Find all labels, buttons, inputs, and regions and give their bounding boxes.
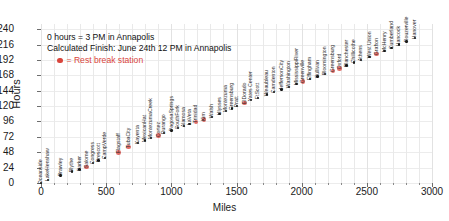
x-axis-tick-label: 1000 [148, 187, 194, 197]
y-axis-tick-mark [37, 106, 41, 107]
y-axis-tick-mark [37, 45, 41, 46]
y-axis-tick-label: 240 [0, 24, 14, 34]
data-point-label: Kim [201, 112, 206, 121]
x-axis-minor-tick [132, 183, 133, 185]
data-point-label: Greensburg [330, 45, 335, 72]
y-axis-tick-label: 24 [0, 163, 14, 173]
chart-figure: Hours Miles 0 hours = 3 PM in Annapolis … [0, 0, 449, 221]
gridline-vertical [289, 24, 290, 183]
y-axis-tick-label: 216 [0, 40, 14, 50]
y-axis-tick-label: 0 [0, 178, 14, 188]
legend-label: = Rest break station [67, 55, 144, 66]
data-point-label: TubaCity [125, 128, 130, 149]
x-axis-tick-mark [106, 183, 107, 187]
x-axis-tick-mark [237, 183, 238, 187]
y-axis-tick-mark [37, 29, 41, 30]
data-point-label: Chillicothe [351, 40, 356, 64]
gridline-vertical [341, 24, 342, 183]
x-axis-tick-label: 2500 [344, 187, 390, 197]
y-axis-tick-mark [37, 137, 41, 138]
y-axis-tick-label: 168 [0, 70, 14, 80]
annotation-line-2: Calculated Finish: June 24th 12 PM in An… [47, 43, 231, 54]
data-point-label: Bloomington [322, 46, 327, 75]
x-axis-tick-mark [171, 183, 172, 187]
y-axis-tick-mark [37, 91, 41, 92]
x-axis-minor-tick [250, 183, 251, 185]
x-axis-minor-tick [54, 183, 55, 185]
gridline-vertical [419, 24, 420, 183]
data-point-label: CampVerde [102, 132, 107, 159]
gridline-vertical [406, 24, 407, 183]
data-point-label: Brawley [58, 158, 63, 176]
data-point-label: FtScott [255, 82, 260, 98]
x-axis-minor-tick [393, 183, 394, 185]
x-axis-minor-tick [223, 183, 224, 185]
gridline-vertical [432, 24, 433, 183]
data-point-label: Sullivan [314, 60, 319, 78]
annotation-line-1: 0 hours = 3 PM in Annapolis [47, 32, 231, 43]
x-axis-minor-tick [276, 183, 277, 185]
gridline-vertical [302, 24, 303, 183]
data-point-label: Pratt [234, 96, 239, 107]
data-point-label: Effingham [307, 57, 312, 80]
x-axis-minor-tick [263, 183, 264, 185]
y-axis-tick-label: 72 [0, 132, 14, 142]
x-axis-minor-tick [145, 183, 146, 185]
x-axis-minor-tick [119, 183, 120, 185]
data-point-label: Blanchester [344, 39, 349, 66]
data-point-label: MontezumaCreek [148, 98, 153, 139]
data-point-label: LakeHenshaw [45, 148, 50, 181]
x-axis-tick-label: 0 [18, 187, 64, 197]
x-axis-minor-tick [184, 183, 185, 185]
y-axis-tick-mark [37, 75, 41, 76]
data-point-label: Yates Center [248, 72, 253, 102]
data-point-label: Blythe [69, 158, 74, 172]
data-point-label: Walsh [209, 104, 214, 118]
legend: = Rest break station [47, 55, 231, 66]
x-axis-tick-label: 1500 [214, 187, 260, 197]
x-axis-minor-tick [380, 183, 381, 185]
x-axis-minor-tick [406, 183, 407, 185]
data-point-label: Athens [358, 45, 363, 61]
x-axis-minor-tick [289, 183, 290, 185]
x-axis-minor-tick [419, 183, 420, 185]
x-axis-tick-mark [432, 183, 433, 187]
data-point-label: PagosaSprings [168, 96, 173, 131]
data-point-label: Hancock [396, 26, 401, 46]
data-point-label: Trinidad [193, 105, 198, 124]
x-axis-minor-tick [158, 183, 159, 185]
data-point-label: West Union [366, 31, 371, 58]
data-point-label: McHenry [381, 31, 386, 52]
y-axis-tick-label: 144 [0, 86, 14, 96]
data-point-label: Weaubleau [264, 70, 269, 96]
data-point-label: Parker [76, 155, 81, 170]
data-point-label: JeffersonCity [278, 60, 283, 90]
data-point-label: Flagstaff [116, 134, 121, 154]
rest-break-dot-icon [57, 58, 63, 64]
x-axis-minor-tick [67, 183, 68, 185]
data-point-label: Kayenta [135, 125, 140, 144]
x-axis-minor-tick [354, 183, 355, 185]
x-axis-minor-tick [93, 183, 94, 185]
data-point-label: Oceanside [38, 159, 43, 184]
data-point-label: Hanover [412, 20, 417, 40]
data-point-label: Oxford [336, 54, 341, 70]
x-axis-minor-tick [197, 183, 198, 185]
y-axis-tick-label: 96 [0, 116, 14, 126]
x-axis-minor-tick [341, 183, 342, 185]
x-axis-tick-label: 2000 [279, 187, 325, 197]
gridline-vertical [263, 24, 264, 183]
data-point-label: Washington [286, 61, 291, 88]
y-axis-tick-label: 192 [0, 55, 14, 65]
data-point-label: Prescott [95, 143, 100, 162]
data-point-label: Rouzerville [404, 17, 409, 43]
y-axis-tick-mark [37, 60, 41, 61]
x-axis-minor-tick [80, 183, 81, 185]
x-axis-minor-tick [210, 183, 211, 185]
data-point-label: Durango [161, 114, 166, 134]
data-point-label: Grafton [374, 38, 379, 55]
x-axis-title: Miles [0, 202, 449, 213]
data-point-label: ElDorado [241, 82, 246, 104]
data-point-label: Cumberland [389, 21, 394, 49]
x-axis-minor-tick [315, 183, 316, 185]
